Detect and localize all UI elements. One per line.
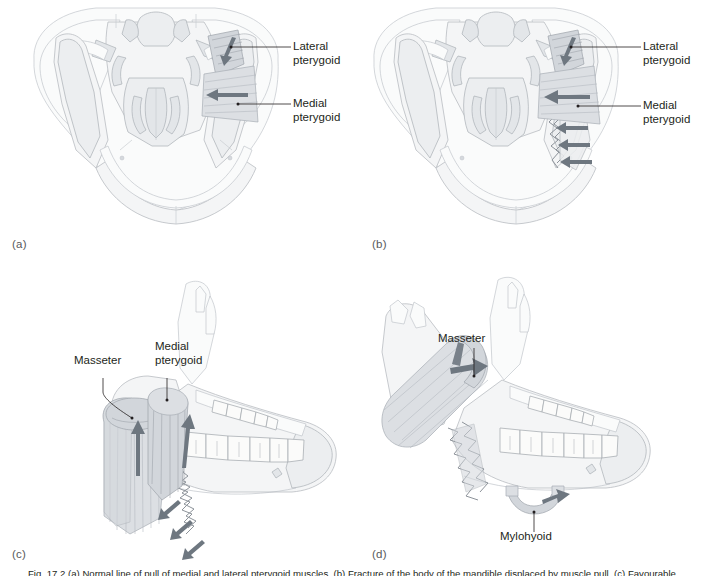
- panel-letter-b: (b): [372, 238, 387, 250]
- panel-letter-d: (d): [372, 548, 387, 560]
- figure-caption: Fig. 17.2 (a) Normal line of pull of med…: [28, 568, 688, 576]
- label-mylohyoid-d: Mylohyoid: [500, 530, 552, 544]
- medial-pterygoid-muscle-c: [148, 388, 188, 500]
- label-lateral-pterygoid-b: Lateral pterygoid: [643, 40, 690, 67]
- panel-a: Lateral pterygoid Medial pterygoid (a): [0, 0, 352, 250]
- label-medial-pterygoid-c: Medial pterygoid: [155, 340, 202, 367]
- label-lateral-pterygoid-a: Lateral pterygoid: [293, 40, 340, 67]
- panel-a-illustration: [0, 0, 352, 250]
- mylohyoid-muscle-d: [506, 486, 564, 514]
- panel-c: Masseter Medial pterygoid (c): [0, 272, 352, 562]
- panel-b: Lateral pterygoid Medial pterygoid (b): [352, 0, 704, 250]
- panel-d-illustration: [352, 272, 704, 562]
- label-medial-pterygoid-b: Medial pterygoid: [643, 99, 690, 126]
- panel-c-illustration: [0, 272, 352, 562]
- label-masseter-d: Masseter: [438, 332, 485, 346]
- panel-d: Masseter Mylohyoid (d): [352, 272, 704, 562]
- label-masseter-c: Masseter: [74, 354, 121, 368]
- fracture-arrows-c: [158, 500, 205, 560]
- figure-container: Lateral pterygoid Medial pterygoid (a): [0, 0, 704, 576]
- panel-letter-c: (c): [12, 548, 26, 560]
- panel-letter-a: (a): [12, 238, 27, 250]
- label-medial-pterygoid-a: Medial pterygoid: [293, 97, 340, 124]
